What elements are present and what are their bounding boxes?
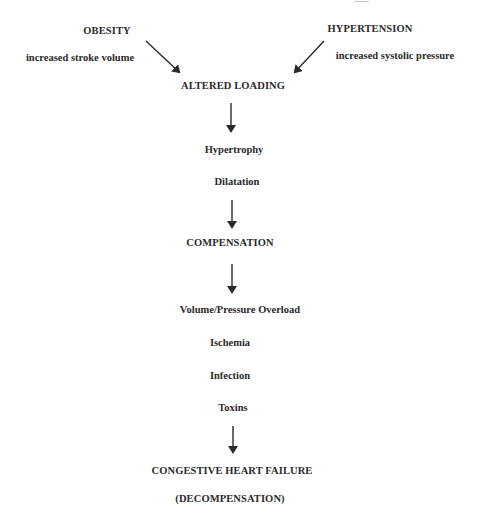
dilatation-label: Dilatation (215, 177, 260, 188)
obesity-subtitle: increased stroke volume (26, 53, 134, 64)
hypertrophy-label: Hypertrophy (205, 145, 264, 156)
decompensation-label: (DECOMPENSATION) (175, 494, 284, 505)
obesity-label: OBESITY (83, 26, 130, 37)
altered-loading-label: ALTERED LOADING (181, 81, 285, 92)
chf-label: CONGESTIVE HEART FAILURE (152, 466, 313, 477)
volume-pressure-overload-label: Volume/Pressure Overload (180, 305, 300, 316)
arrow-hypertension-to-loading (295, 41, 324, 72)
infection-label: Infection (210, 371, 250, 382)
arrows-layer (0, 0, 481, 523)
ischemia-label: Ischemia (210, 338, 250, 349)
arrow-obesity-to-loading (146, 41, 179, 72)
hypertension-label: HYPERTENSION (328, 24, 413, 35)
toxins-label: Toxins (218, 403, 247, 414)
compensation-label: COMPENSATION (186, 238, 273, 249)
hypertension-subtitle: increased systolic pressure (336, 51, 454, 62)
